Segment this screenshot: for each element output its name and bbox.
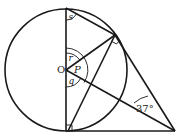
tangent-line-upper: [115, 35, 175, 131]
angle-37-arc: [134, 96, 148, 103]
geometry-diagram: s r P q O 37°: [0, 0, 181, 136]
label-s: s: [69, 12, 74, 22]
label-37-degrees: 37°: [136, 103, 154, 114]
chord-bottom-to-tangent-point: [68, 35, 115, 131]
label-r: r: [69, 53, 74, 63]
chord-top-to-tangent-point: [66, 8, 115, 35]
label-p: P: [73, 64, 81, 75]
label-center-o: O: [57, 64, 65, 75]
label-q: q: [69, 76, 75, 86]
